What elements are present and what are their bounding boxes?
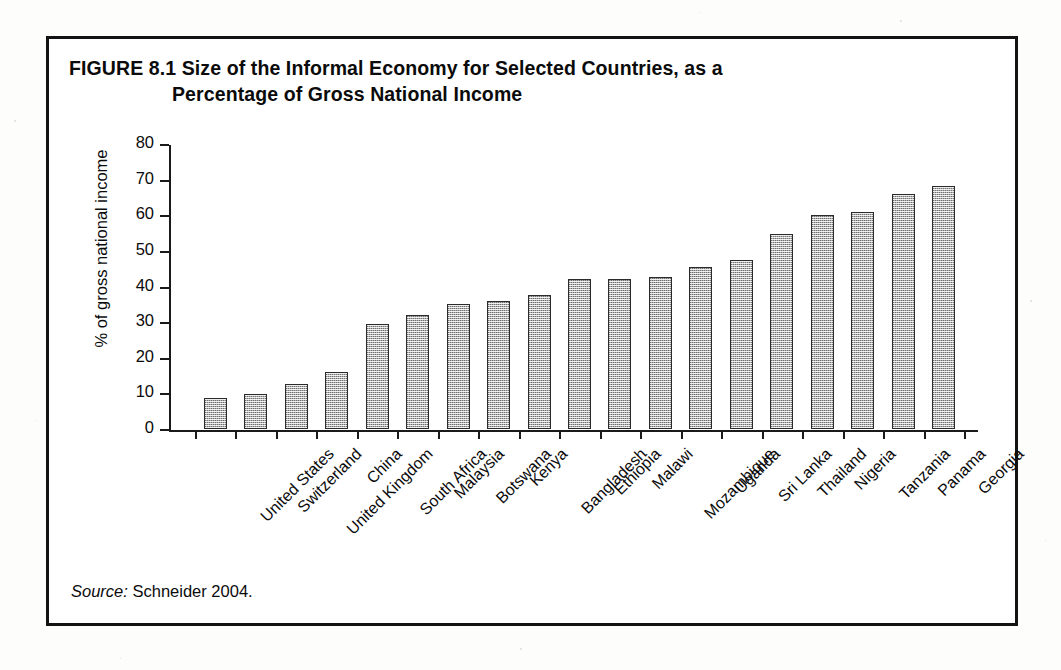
x-axis-tick	[600, 430, 602, 439]
source-label: Source:	[71, 582, 128, 600]
bar	[811, 215, 834, 429]
bar	[649, 277, 672, 429]
y-axis-tick-label: 10	[136, 382, 154, 401]
bar	[932, 186, 955, 429]
x-axis-tick	[802, 430, 804, 439]
x-axis-tick	[195, 430, 197, 439]
x-axis-tick	[559, 430, 561, 439]
x-axis-line	[169, 430, 978, 432]
x-axis-tick	[235, 430, 237, 439]
y-axis-tick: 70	[160, 180, 169, 182]
y-axis-tick-label: 40	[136, 276, 154, 295]
bar	[285, 384, 308, 429]
y-axis-tick: 60	[160, 215, 169, 217]
scan-speckle	[900, 20, 902, 22]
y-axis-tick: 50	[160, 251, 169, 253]
bar	[325, 372, 348, 429]
x-axis-tick	[964, 430, 966, 439]
bar	[851, 212, 874, 429]
y-axis-tick: 30	[160, 322, 169, 324]
bar	[204, 398, 227, 429]
x-axis-tick	[276, 430, 278, 439]
scan-speckle	[520, 648, 522, 650]
scan-speckle	[35, 420, 36, 421]
scan-speckle	[700, 12, 701, 13]
x-axis-tick	[519, 430, 521, 439]
bar	[770, 234, 793, 429]
x-axis-tick	[924, 430, 926, 439]
y-axis-tick: 10	[160, 393, 169, 395]
chart-plot-area: % of gross national income 0102030405060…	[49, 39, 1015, 623]
y-axis-line	[169, 145, 171, 432]
x-axis-tick	[397, 430, 399, 439]
y-axis-tick: 40	[160, 287, 169, 289]
x-axis-tick	[438, 430, 440, 439]
bar	[487, 301, 510, 429]
bar	[608, 279, 631, 429]
x-axis-tick	[478, 430, 480, 439]
y-axis-tick: 20	[160, 358, 169, 360]
bar	[447, 304, 470, 429]
y-axis-tick-label: 80	[136, 133, 154, 152]
bar	[689, 267, 712, 429]
y-axis-tick-label: 0	[145, 418, 154, 437]
y-axis-tick-label: 30	[136, 311, 154, 330]
bar	[244, 394, 267, 429]
y-axis-title: % of gross national income	[92, 134, 111, 364]
y-axis-tick: 0	[160, 429, 169, 431]
x-axis-tick	[681, 430, 683, 439]
x-axis-tick	[640, 430, 642, 439]
bar	[568, 279, 591, 429]
x-axis-tick	[316, 430, 318, 439]
source-text: Schneider 2004.	[132, 582, 252, 600]
y-axis-tick: 80	[160, 144, 169, 146]
bar	[528, 295, 551, 429]
page-canvas: FIGURE 8.1 Size of the Informal Economy …	[0, 0, 1061, 670]
y-axis-tick-label: 60	[136, 204, 154, 223]
scan-speckle	[120, 658, 121, 659]
x-axis-tick	[843, 430, 845, 439]
bar	[366, 324, 389, 429]
scan-speckle	[1030, 300, 1032, 302]
bar	[892, 194, 915, 429]
y-axis-tick-label: 50	[136, 240, 154, 259]
x-axis-tick	[762, 430, 764, 439]
x-axis-tick	[357, 430, 359, 439]
scan-speckle	[14, 120, 16, 122]
source-note: Source: Schneider 2004.	[71, 582, 253, 601]
x-axis-tick	[721, 430, 723, 439]
bar	[406, 315, 429, 429]
bar	[730, 260, 753, 429]
y-axis-tick-label: 70	[136, 169, 154, 188]
chart-axes: 01020304050607080 United StatesSwitzerla…	[169, 145, 978, 431]
figure-frame: FIGURE 8.1 Size of the Informal Economy …	[46, 36, 1018, 626]
x-axis-tick	[883, 430, 885, 439]
scan-speckle	[1045, 540, 1046, 541]
y-axis-tick-label: 20	[136, 347, 154, 366]
